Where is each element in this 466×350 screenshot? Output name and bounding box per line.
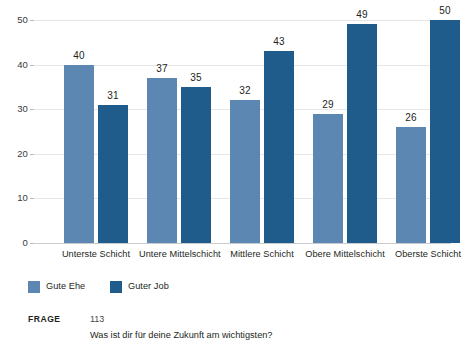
- bar: [430, 20, 460, 243]
- bar-group: 2949: [313, 0, 377, 250]
- y-tick-mark: [30, 20, 34, 21]
- x-axis-tick-label: Unterste Schicht: [56, 249, 136, 259]
- y-tick-label: 50: [17, 15, 28, 25]
- legend-label: Gute Ehe: [46, 282, 85, 291]
- bar-value-label: 32: [230, 86, 260, 96]
- bar: [230, 100, 260, 243]
- x-axis-category-labels: Unterste SchichtUntere MittelschichtMitt…: [34, 249, 451, 269]
- legend-item[interactable]: Guter Job: [110, 281, 169, 293]
- x-axis-tick-label: Mittlere Schicht: [222, 249, 302, 259]
- x-axis-tick-label: Obere Mittelschicht: [305, 249, 385, 259]
- bar-group: 3735: [147, 0, 211, 250]
- footer-question-number: 113: [90, 315, 104, 324]
- plot-area: 01020304050 40313735324329492650: [0, 0, 453, 250]
- y-tick-label: 0: [23, 238, 28, 248]
- chart-footer: FRAGE 113 Was ist dir für deine Zukunft …: [28, 315, 448, 328]
- bar: [64, 65, 94, 243]
- bars-layer: 40313735324329492650: [34, 0, 451, 250]
- y-tick-mark: [30, 243, 34, 244]
- bar-value-label: 37: [147, 64, 177, 74]
- bar: [264, 51, 294, 243]
- bar: [147, 78, 177, 243]
- y-tick-label: 20: [17, 149, 28, 159]
- bar: [313, 114, 343, 243]
- bar: [396, 127, 426, 243]
- bar-value-label: 31: [98, 91, 128, 101]
- y-tick-mark: [30, 198, 34, 199]
- footer-question-row: FRAGE 113: [28, 315, 448, 328]
- legend-item[interactable]: Gute Ehe: [28, 281, 85, 293]
- legend-label: Guter Job: [128, 282, 169, 291]
- x-axis-tick-label: Oberste Schicht: [388, 249, 466, 259]
- y-tick-mark: [30, 65, 34, 66]
- bar-value-label: 35: [181, 73, 211, 83]
- bar-value-label: 29: [313, 100, 343, 110]
- bar: [98, 105, 128, 243]
- bar-group: 3243: [230, 0, 294, 250]
- y-tick-label: 30: [17, 104, 28, 114]
- y-tick-mark: [30, 154, 34, 155]
- footer-question-text: Was ist dir für deine Zukunft am wichtig…: [90, 330, 272, 341]
- footer-key-label: FRAGE: [28, 315, 61, 324]
- bar-value-label: 49: [347, 10, 377, 20]
- legend-swatch-icon: [110, 281, 122, 293]
- y-tick-label: 10: [17, 194, 28, 204]
- bar: [347, 24, 377, 243]
- y-axis: 01020304050: [0, 0, 30, 250]
- bar-value-label: 43: [264, 37, 294, 47]
- y-tick-mark: [30, 109, 34, 110]
- legend-swatch-icon: [28, 281, 40, 293]
- bar-value-label: 40: [64, 51, 94, 61]
- bar: [181, 87, 211, 243]
- bar-group: 2650: [396, 0, 460, 250]
- bar-value-label: 26: [396, 113, 426, 123]
- bar-value-label: 50: [430, 6, 460, 16]
- x-axis-tick-label: Untere Mittelschicht: [139, 249, 219, 259]
- y-tick-label: 40: [17, 60, 28, 70]
- bar-group: 4031: [64, 0, 128, 250]
